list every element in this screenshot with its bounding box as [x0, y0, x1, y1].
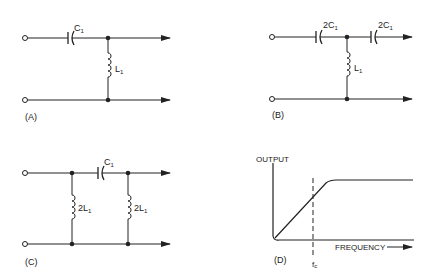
- inductor-label: L1: [115, 64, 124, 75]
- junction-dot: [345, 97, 350, 102]
- panel-label-c: (C): [25, 257, 38, 267]
- input-terminal-top: [270, 35, 275, 40]
- junction-dot: [126, 171, 131, 176]
- input-terminal-bottom: [23, 242, 28, 247]
- panel-b-high-pass-t-section: [270, 30, 413, 102]
- capacitor-label: 2C1: [378, 20, 394, 31]
- cutoff-frequency-label: fc: [312, 260, 317, 269]
- inductor-l1-symbol: [347, 52, 350, 76]
- inductor-label: 2L1: [78, 203, 92, 214]
- inductor-label: L1: [354, 63, 363, 74]
- input-terminal-bottom: [270, 97, 275, 102]
- junction-dot: [70, 171, 75, 176]
- inductor-l1-symbol: [108, 53, 111, 77]
- panel-label-d: (D): [274, 255, 287, 265]
- panel-a-high-pass-l-section: [23, 31, 171, 103]
- inductor-2l1-symbol: [72, 195, 75, 219]
- panel-label-b: (B): [272, 110, 284, 120]
- y-axis: [273, 163, 279, 240]
- x-axis-label: FREQUENCY: [335, 243, 386, 252]
- junction-dot: [106, 36, 111, 41]
- capacitor-label: C1: [74, 23, 85, 34]
- junction-dot: [126, 242, 131, 247]
- response-curve: [275, 180, 413, 238]
- input-terminal-top: [23, 171, 28, 176]
- junction-dot: [70, 242, 75, 247]
- filter-diagram: C1 L1 (A) 2C1 2C1 L1 (B): [0, 0, 439, 274]
- junction-dot: [106, 98, 111, 103]
- capacitor-label: C1: [104, 157, 115, 168]
- capacitor-label: 2C1: [323, 20, 339, 31]
- panel-label-a: (A): [25, 112, 37, 122]
- inductor-2l1-symbol: [128, 195, 131, 219]
- y-axis-label: OUTPUT: [256, 155, 289, 164]
- input-terminal-bottom: [23, 98, 28, 103]
- panel-c-high-pass-pi-section: [23, 166, 171, 247]
- inductor-label: 2L1: [134, 203, 148, 214]
- junction-dot: [345, 35, 350, 40]
- input-terminal-top: [23, 36, 28, 41]
